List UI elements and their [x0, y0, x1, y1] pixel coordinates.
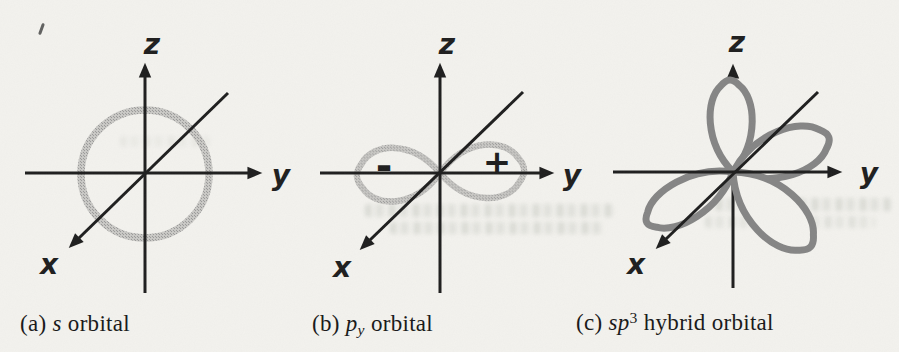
orbital-diagrams-svg: z y x - + z y x	[0, 0, 899, 352]
caption-superscript: 3	[630, 309, 638, 326]
caption-s-orbital: (a) s orbital	[20, 311, 130, 337]
caption-math: s	[53, 311, 62, 336]
caption-text: hybrid orbital	[644, 310, 774, 335]
scanned-orbital-figure: z y x - + z y x	[0, 0, 899, 352]
caption-py-orbital: (b) py orbital	[312, 311, 433, 339]
caption-math: p	[346, 311, 358, 336]
caption-index: (a)	[20, 311, 46, 336]
caption-sp3-orbital: (c) sp3 hybrid orbital	[576, 309, 774, 336]
caption-index: (b)	[312, 311, 340, 336]
caption-index: (c)	[576, 310, 602, 335]
caption-text: orbital	[68, 311, 130, 336]
caption-text: orbital	[371, 311, 433, 336]
caption-math: sp	[609, 310, 630, 335]
paper-grain-overlay	[0, 0, 899, 352]
caption-subscript: y	[358, 321, 365, 338]
